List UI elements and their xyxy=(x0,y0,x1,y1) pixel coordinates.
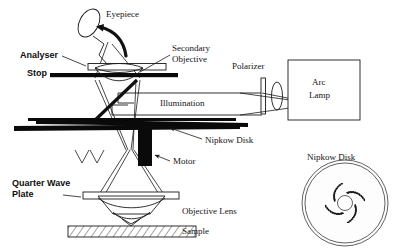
nipkow-disk-face xyxy=(302,160,388,246)
ray-small-v xyxy=(75,150,104,163)
nipkow-inline-label: Nipkow Disk xyxy=(205,135,254,145)
stop-bar xyxy=(50,73,178,77)
motor-block xyxy=(138,126,152,166)
analyser-label: Analyser xyxy=(20,50,59,60)
arc-lamp-label-line1: Arc xyxy=(312,77,326,87)
eyepiece-arrow xyxy=(100,27,126,56)
optical-diagram: Eyepiece Analyser Stop Secondary Objecti… xyxy=(0,0,401,252)
quarter-wave-label-line2: Plate xyxy=(12,189,34,199)
stop-label: Stop xyxy=(27,68,47,78)
quarter-wave-label-line1: Quarter Wave xyxy=(12,178,70,188)
sample-slab xyxy=(68,226,196,237)
eyepiece-label: Eyepiece xyxy=(106,9,139,19)
sample-group xyxy=(68,226,196,237)
ray-bundle-lower xyxy=(98,150,165,196)
eyepiece-lens xyxy=(74,5,105,40)
quarter-wave-leader xyxy=(63,195,81,197)
nipkow-disk-edge xyxy=(14,118,248,131)
polarizer-label: Polarizer xyxy=(232,61,264,71)
analyser-plate xyxy=(88,64,166,71)
motor-leader xyxy=(155,155,170,161)
illumination-label: Illumination xyxy=(160,98,205,108)
objective-lens-group xyxy=(98,196,165,226)
secondary-objective-label: Objective xyxy=(172,54,207,64)
nipkow-inline-leader xyxy=(170,128,202,139)
analyser-leader xyxy=(62,56,86,66)
sample-label: Sample xyxy=(182,226,209,236)
objective-lens-label: Objective Lens xyxy=(182,206,237,216)
motor-label: Motor xyxy=(173,156,196,166)
diagram-canvas: Eyepiece Analyser Stop Secondary Objecti… xyxy=(0,0,401,252)
arc-lamp-label-line2: Lamp xyxy=(309,90,330,100)
secondary-label: Secondary xyxy=(172,43,210,53)
